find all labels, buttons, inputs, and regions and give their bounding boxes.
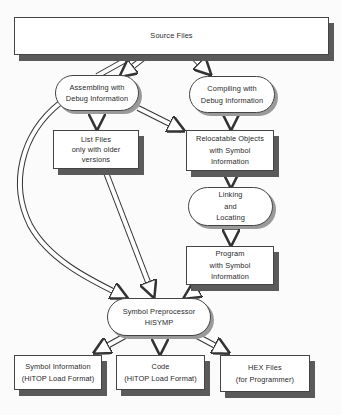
- arrow-layer: [0, 0, 341, 415]
- node-label: (HiTOP Load Format): [22, 373, 95, 385]
- node-label: List Files: [81, 135, 111, 145]
- arrow-list-files-to-preprocessor: [105, 170, 153, 295]
- node-symbol-information: Symbol Information (HiTOP Load Format): [14, 355, 102, 390]
- node-label: Compiling with: [207, 83, 256, 95]
- node-symbol-preprocessor: Symbol Preprocessor HiSYMP: [107, 298, 211, 336]
- node-list-files: List Files only with older versions: [53, 130, 139, 169]
- node-label: Debug Information: [66, 93, 129, 105]
- arrow-source-to-compiling: [193, 57, 209, 73]
- node-assembling: Assembling with Debug Information: [55, 75, 139, 111]
- node-label: Assembling with: [70, 82, 125, 94]
- node-label: and: [224, 201, 237, 213]
- node-hex-files: HEX Files (for Programmer): [220, 355, 310, 392]
- node-label: Symbol Preprocessor: [123, 306, 196, 318]
- node-label: HiSYMP: [145, 317, 174, 329]
- node-label: Locating: [216, 212, 245, 224]
- node-label: Debug Information: [201, 95, 264, 107]
- node-label: with Symbol: [210, 145, 251, 157]
- node-label: Information: [211, 271, 249, 283]
- flow-diagram: Source Files Assembling with Debug Infor…: [0, 0, 341, 415]
- node-label: Source Files: [150, 30, 192, 42]
- node-label: Linking: [218, 189, 242, 201]
- arrow-assembling-to-relocatable: [138, 108, 182, 130]
- node-label: Code: [151, 361, 169, 373]
- arrow-program-to-preprocessor: [186, 288, 200, 297]
- arrow-preprocessor-to-hex: [197, 336, 227, 352]
- arrow-preprocessor-to-symbol-info: [96, 336, 125, 352]
- node-label: Information: [211, 156, 249, 168]
- node-label: Symbol Information: [25, 361, 90, 373]
- node-code: Code (HiTOP Load Format): [116, 355, 205, 390]
- node-label: with Symbol: [210, 260, 251, 272]
- node-label: versions: [82, 155, 110, 165]
- node-label: (for Programmer): [236, 374, 294, 386]
- node-linking-locating: Linking and Locating: [188, 187, 273, 226]
- node-label: HEX Files: [248, 362, 282, 374]
- node-label: Relocatable Objects: [196, 133, 264, 145]
- node-compiling: Compiling with Debug Information: [189, 76, 275, 113]
- node-relocatable-objects: Relocatable Objects with Symbol Informat…: [186, 130, 274, 171]
- node-label: (HiTOP Load Format): [124, 373, 197, 385]
- node-program: Program with Symbol Information: [186, 246, 274, 285]
- node-source-files: Source Files: [14, 17, 329, 55]
- node-label: Program: [215, 248, 244, 260]
- node-label: only with older: [72, 145, 121, 155]
